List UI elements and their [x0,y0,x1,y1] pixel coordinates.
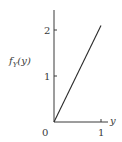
y-axis-label-arg: (y) [17,55,30,66]
chart-plot-area [0,0,122,142]
density-line [54,25,101,122]
x-tick-label-1: 1 [98,128,104,138]
density-chart: 2 1 fY(y) 0 1 y [0,0,122,142]
y-tick-label-2: 2 [44,26,50,36]
origin-label: 0 [42,128,48,138]
y-axis-label: fY(y) [9,56,31,69]
y-tick-label-1: 1 [44,72,50,82]
x-axis-label: y [110,116,116,126]
